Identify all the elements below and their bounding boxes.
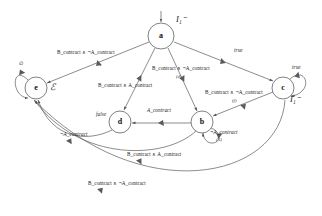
edge-label-a-to-e: B_contract ∧ ¬A_contract <box>57 50 115 55</box>
state-annotation-d: false <box>96 112 106 117</box>
edge-label-a-to-b: B_contract ∧ ¬A_contract <box>152 66 210 71</box>
edge-c-to-b <box>213 92 273 116</box>
edge-label-c-to-b: B_contract ∧ ¬A_contract <box>205 90 263 95</box>
node-label-c[interactable]: c <box>279 84 287 92</box>
edge-label-b-self: ¬A_contract <box>210 130 238 135</box>
edge-label-d-to-e: ¬A_contract <box>60 132 88 137</box>
edge-label-e-self: ∅ <box>19 61 23 66</box>
node-label-a[interactable]: a <box>157 32 165 40</box>
state-annotation-e: ℰ <box>50 82 55 92</box>
node-label-d[interactable]: d <box>116 118 124 126</box>
edge-label-a-to-d: B_contract ∧ A_contract <box>98 83 152 88</box>
edge-label-c-to-e: B_contract ∧ ¬A_contract <box>88 181 146 186</box>
state-annotation-a: I₁⁻ <box>176 14 186 24</box>
edge-label-b-to-d: A_contract <box>147 108 171 113</box>
state-annotation-c: I₁⁻ <box>290 94 300 104</box>
state-diagram-canvas: a e c d b I₁⁻ ℰ I₁⁻ false B_contract ∧ ¬… <box>0 0 322 216</box>
edge-label-c-to-b-tag: (f) <box>232 99 236 103</box>
edge-label-a-to-c: true <box>234 48 243 53</box>
edge-label-c-self: true <box>292 65 301 70</box>
edge-label-a-to-b-tag: (d) <box>176 75 181 79</box>
node-label-b[interactable]: b <box>198 118 206 126</box>
node-label-e[interactable]: e <box>32 84 40 92</box>
edge-label-b-to-e: B_contract ∧ A_contract <box>127 152 181 157</box>
edge-label-b-self-tag: (A) <box>216 138 222 142</box>
